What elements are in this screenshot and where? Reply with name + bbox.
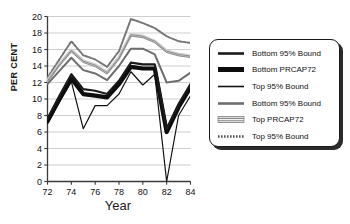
legend-item-label: Bottom 95% Bound [252, 49, 321, 58]
x-axis-label: Year [48, 198, 188, 213]
legend-item[interactable]: Top 95% Bound [210, 128, 339, 145]
legend-items: Bottom 95% BoundBottom PRCAP72Top 95% Bo… [210, 40, 339, 146]
svg-text:72: 72 [42, 187, 52, 197]
legend-swatch-gray-solid-icon [217, 98, 245, 109]
svg-text:80: 80 [138, 187, 148, 197]
svg-text:8: 8 [37, 111, 42, 121]
svg-text:76: 76 [90, 187, 100, 197]
legend-item[interactable]: Top PRCAP72 [210, 111, 339, 128]
svg-text:18: 18 [32, 28, 42, 38]
legend-item-label: Top 95% Bound [252, 82, 309, 91]
data-series-group [48, 19, 191, 182]
svg-text:14: 14 [32, 61, 42, 71]
legend-item-label: Top 95% Bound [252, 132, 309, 141]
svg-text:16: 16 [32, 45, 42, 55]
legend-swatch-thin-black-icon [217, 81, 245, 92]
legend-item-label: Top PRCAP72 [252, 115, 304, 124]
chart-figure: 0246810121416182072747678808284 PER CENT… [0, 0, 350, 224]
grid-lines [48, 17, 191, 182]
legend-item[interactable]: Bottom 95% Bound [210, 95, 339, 112]
legend-swatch-thick-black-icon [217, 64, 245, 75]
svg-text:10: 10 [32, 94, 42, 104]
legend-swatch-medium-black-icon [217, 48, 245, 59]
legend-item[interactable]: Top 95% Bound [210, 78, 339, 95]
svg-text:6: 6 [37, 127, 42, 137]
legend-item[interactable]: Bottom PRCAP72 [210, 62, 339, 79]
legend-item-label: Bottom PRCAP72 [252, 65, 316, 74]
legend-item[interactable]: Bottom 95% Bound [210, 45, 339, 62]
svg-text:4: 4 [37, 144, 42, 154]
svg-text:0: 0 [37, 177, 42, 187]
legend-swatch-gray-dotted-icon [217, 131, 245, 142]
svg-text:20: 20 [32, 12, 42, 22]
svg-text:82: 82 [162, 187, 172, 197]
y-axis-label: PER CENT [9, 27, 19, 107]
svg-text:74: 74 [66, 187, 76, 197]
svg-text:84: 84 [185, 187, 195, 197]
svg-text:78: 78 [114, 187, 124, 197]
legend-swatch-gray-striped-icon [217, 114, 245, 125]
legend-item-label: Bottom 95% Bound [252, 99, 321, 108]
chart-legend: Bottom 95% BoundBottom PRCAP72Top 95% Bo… [209, 39, 340, 147]
svg-text:2: 2 [37, 160, 42, 170]
svg-text:12: 12 [32, 78, 42, 88]
